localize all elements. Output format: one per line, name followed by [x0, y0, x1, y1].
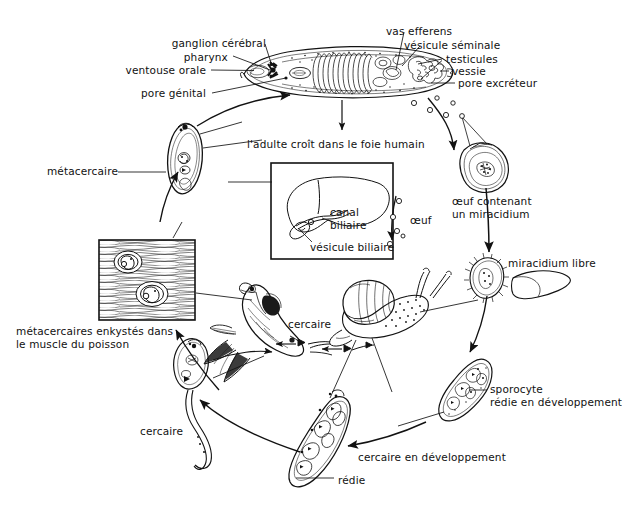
- label-canal-biliaire: canal biliaire: [330, 206, 367, 232]
- label-metacercaires-enkystes: métacercaires enkystés dans le muscle du…: [16, 325, 173, 351]
- label-pore-excreteur: pore excréteur: [458, 77, 537, 90]
- label-sporocyte-redie: sporocyte rédie en développement: [490, 383, 622, 409]
- label-ganglion-cerebral: ganglion cérébral: [50, 37, 266, 50]
- label-vesicule-seminale: vésicule séminale: [404, 39, 500, 52]
- label-cercaire-right: cercaire: [288, 318, 331, 331]
- label-metacercaire: métacercaire: [10, 165, 118, 178]
- label-cercaire-left: cercaire: [140, 425, 183, 438]
- label-cercaire-en-developpement: cercaire en développement: [358, 451, 506, 464]
- label-testicules: testicules: [446, 53, 498, 66]
- label-vesicule-biliaire: vésicule biliaire: [310, 241, 394, 254]
- label-redie: rédie: [338, 474, 365, 487]
- label-oeuf-contenant-miracidium: œuf contenant un miracidium: [452, 195, 532, 221]
- label-ventouse-orale: ventouse orale: [20, 64, 206, 77]
- label-vessie: vessie: [452, 65, 486, 78]
- label-pore-genital: pore génital: [40, 87, 206, 100]
- label-oeuf: œuf: [410, 214, 432, 227]
- label-liver-caption: l'adulte croît dans le foie humain: [247, 138, 425, 151]
- label-miracidium-libre: miracidium libre: [508, 257, 596, 270]
- label-pharynx: pharynx: [50, 51, 228, 64]
- label-vas-efferens: vas efferens: [386, 25, 452, 38]
